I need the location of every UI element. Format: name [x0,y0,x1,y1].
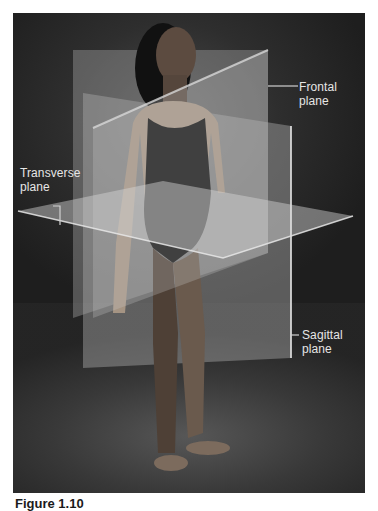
sagittal-label-line2: plane [302,342,343,356]
sagittal-label-line1: Sagittal [302,328,343,342]
figure-caption: Figure 1.10 [15,497,84,511]
transverse-plane-label: Transverse plane [20,166,81,194]
frontal-label-line2: plane [299,94,337,108]
frontal-label-line1: Frontal [299,80,337,94]
transverse-label-line2: plane [20,180,81,194]
figure-number: Figure 1.10 [15,496,84,511]
transverse-label-line1: Transverse [20,166,81,180]
sagittal-plane-label: Sagittal plane [302,328,343,356]
frontal-plane-label: Frontal plane [299,80,337,108]
